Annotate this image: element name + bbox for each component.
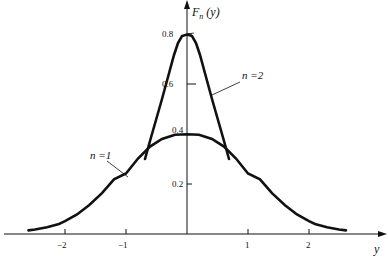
leader-n2 bbox=[212, 82, 240, 95]
peak-mark bbox=[187, 33, 194, 34]
x-tick-label: −1 bbox=[118, 240, 128, 250]
x-axis-arrow-icon bbox=[378, 231, 387, 237]
y-tick-label: 0.8 bbox=[162, 29, 173, 39]
chart-canvas bbox=[0, 0, 388, 260]
x-tick-label: −2 bbox=[57, 240, 67, 250]
x-axis-label: y bbox=[374, 242, 379, 257]
x-tick-label: 2 bbox=[306, 240, 311, 250]
y-ticks bbox=[187, 34, 196, 184]
series-n1-label: n =1 bbox=[90, 150, 111, 160]
y-tick-label: 0.4 bbox=[172, 125, 183, 135]
leader-n1 bbox=[107, 161, 128, 177]
x-tick-label: 1 bbox=[245, 240, 250, 250]
series-n2-label: n =2 bbox=[242, 70, 263, 80]
y-tick-label: 0.6 bbox=[162, 79, 173, 89]
y-axis-arrow-icon bbox=[184, 0, 190, 9]
y-axis-label: Fn (y) bbox=[192, 5, 220, 21]
y-tick-label: 0.2 bbox=[172, 179, 183, 189]
